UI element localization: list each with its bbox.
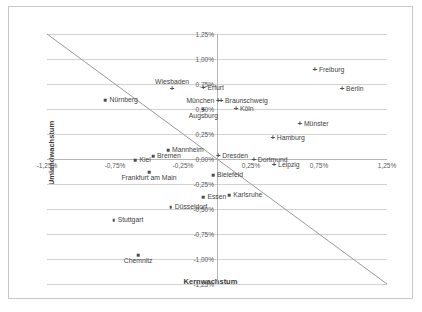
- data-point-marker: [169, 206, 172, 209]
- data-point-label: Hamburg: [277, 135, 305, 142]
- data-point-marker: [212, 174, 215, 177]
- data-point-label: Wiesbaden: [155, 79, 189, 86]
- x-axis-tick-label: 1,25%: [378, 162, 396, 169]
- y-axis-tick-label: -0,75%: [191, 231, 214, 238]
- plot-area: -1,25%-1,00%-0,75%-0,50%-0,25%0,00%0,25%…: [47, 34, 387, 284]
- data-point-marker: [340, 85, 345, 93]
- data-point-marker: [251, 156, 256, 164]
- data-point-label: Augsburg: [189, 113, 218, 120]
- scatter-chart-figure: Umlandwachstum Kernwachstum -1,25%-1,00%…: [0, 0, 422, 312]
- data-point-label: Chemnitz: [124, 258, 153, 265]
- data-point-marker: [298, 120, 303, 128]
- data-point-label: Freiburg: [319, 67, 344, 74]
- y-axis-tick-label: 0,00%: [191, 156, 214, 163]
- data-point-marker: [216, 97, 221, 105]
- x-axis-tick-label: -1,25%: [37, 162, 58, 169]
- data-point-label: Berlin: [346, 86, 363, 93]
- x-axis-tick-label: -0,25%: [173, 162, 194, 169]
- data-point-marker: [313, 66, 318, 74]
- y-axis-tick-label: -1,00%: [191, 256, 214, 263]
- data-point-label: Stuttgart: [118, 217, 144, 224]
- y-axis-tick-label: 1,25%: [191, 31, 214, 38]
- y-axis-tick-label: -0,25%: [191, 181, 214, 188]
- data-point-label: Bremen: [157, 153, 181, 160]
- data-point-marker: [270, 134, 275, 142]
- data-point-marker: [104, 99, 107, 102]
- data-point-label: Düsseldorf: [175, 204, 208, 211]
- data-point-label: München: [186, 98, 214, 105]
- data-point-label: Münster: [304, 121, 329, 128]
- data-point-marker: [272, 161, 277, 169]
- data-point-label: Dresden: [222, 153, 248, 160]
- data-point-marker: [152, 155, 155, 158]
- data-point-label: Erfurt: [207, 85, 224, 92]
- y-axis-tick-label: 1,00%: [191, 56, 214, 63]
- data-point-marker: [170, 85, 175, 93]
- y-axis-tick-label: 0,25%: [191, 131, 214, 138]
- data-point-label: Braunschweig: [225, 98, 268, 105]
- y-axis-tick-label: -1,25%: [191, 281, 214, 288]
- data-point-marker: [148, 171, 151, 174]
- data-point-label: Kiel: [139, 157, 150, 164]
- data-point-label: Essen: [207, 194, 226, 201]
- data-point-marker: [201, 84, 206, 92]
- gridline-horizontal: [47, 284, 387, 285]
- data-point-label: Frankfurt am Main: [121, 175, 176, 182]
- data-point-marker: [234, 105, 239, 113]
- data-point-marker: [137, 254, 140, 257]
- data-point-label: Nürnberg: [109, 97, 137, 104]
- data-point-marker: [134, 159, 137, 162]
- data-point-label: Köln: [240, 106, 254, 113]
- data-point-marker: [112, 219, 115, 222]
- data-point-label: Leipzig: [278, 162, 300, 169]
- data-point-marker: [216, 152, 221, 160]
- data-point-marker: [202, 196, 205, 199]
- x-axis-tick-label: 0,75%: [310, 162, 328, 169]
- data-point-marker: [228, 194, 231, 197]
- data-point-label: Karlsruhe: [233, 192, 262, 199]
- x-axis-tick-label: -0,75%: [105, 162, 126, 169]
- chart-frame: Umlandwachstum Kernwachstum -1,25%-1,00%…: [8, 6, 413, 299]
- data-point-label: Bielefeld: [217, 172, 243, 179]
